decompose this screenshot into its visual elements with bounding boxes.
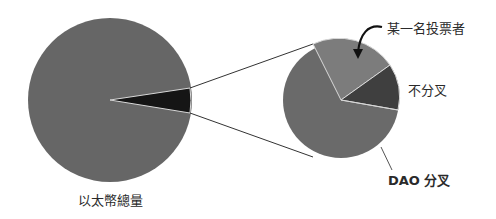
label-one-voter: 某一名投票者 bbox=[387, 18, 465, 37]
dao-leader-line bbox=[381, 147, 392, 170]
label-total-ether: 以太幣總量 bbox=[78, 190, 143, 209]
label-dao-fork: DAO 分叉 bbox=[388, 170, 450, 189]
label-no-fork: 不分叉 bbox=[408, 80, 447, 99]
